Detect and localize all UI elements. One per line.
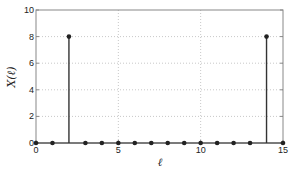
stem-marker	[215, 141, 220, 146]
stem-marker	[149, 141, 154, 146]
y-axis-label: X(ℓ)	[5, 67, 18, 89]
stem-chart: 051015 0246810 ℓ X(ℓ)	[0, 0, 295, 170]
y-tick-label: 10	[24, 5, 34, 15]
y-tick-label: 6	[29, 58, 34, 68]
x-tick-label: 10	[196, 145, 206, 155]
stem-marker	[50, 141, 55, 146]
y-tick-label: 0	[29, 138, 34, 148]
stem-marker	[264, 34, 269, 39]
stem-marker	[100, 141, 105, 146]
axes	[36, 10, 283, 143]
y-tick-label: 2	[29, 111, 34, 121]
y-tick-labels: 0246810	[24, 5, 34, 148]
stem-marker	[231, 141, 236, 146]
stem-marker	[182, 141, 187, 146]
stem-marker	[133, 141, 138, 146]
y-tick-label: 4	[29, 85, 34, 95]
stem-marker	[165, 141, 170, 146]
grid-lines	[36, 10, 283, 143]
x-axis-label: ℓ	[158, 156, 163, 169]
x-tick-label: 15	[278, 145, 288, 155]
x-tick-labels: 051015	[33, 145, 288, 155]
x-tick-label: 5	[116, 145, 121, 155]
stem-marker	[83, 141, 88, 146]
x-tick-label: 0	[33, 145, 38, 155]
stem-marker	[248, 141, 253, 146]
stem-marker	[67, 34, 72, 39]
y-tick-label: 8	[29, 32, 34, 42]
plot-frame	[36, 10, 283, 143]
